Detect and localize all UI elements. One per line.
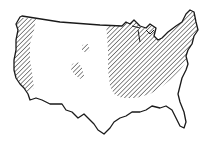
us-map-svg	[0, 0, 207, 145]
hatched-regions	[14, 10, 200, 98]
hatch-interior-patch-south	[71, 62, 84, 79]
us-map	[0, 0, 207, 145]
hatch-eastern-region	[106, 10, 200, 98]
hatch-interior-patch-north	[82, 44, 90, 53]
